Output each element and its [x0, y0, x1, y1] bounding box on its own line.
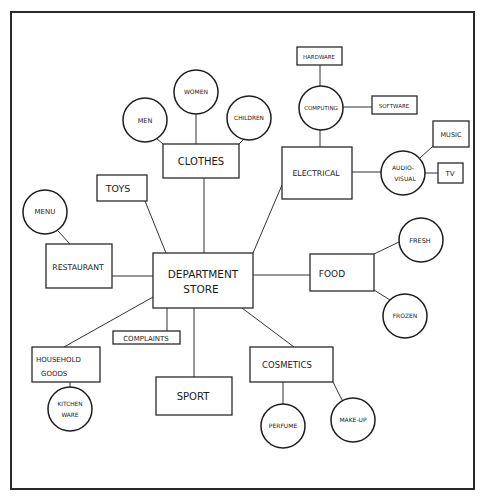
node-electrical[interactable]: ELECTRICAL — [282, 147, 352, 199]
node-music[interactable]: MUSIC — [433, 121, 469, 147]
edge-food-frozen — [374, 290, 390, 300]
node-label: COSMETICS — [262, 360, 312, 370]
node-computing[interactable]: COMPUTING — [299, 86, 343, 130]
node-label: CHILDREN — [234, 115, 264, 121]
edge-store-toys — [145, 201, 166, 253]
node-hardware[interactable]: HARDWARE — [297, 47, 342, 65]
node-fresh[interactable]: FRESH — [399, 218, 443, 262]
node-frozen[interactable]: FROZEN — [383, 294, 427, 338]
node-label: KITCHEN — [57, 401, 82, 407]
node-clothes[interactable]: CLOTHES — [163, 144, 239, 178]
node-label: TV — [444, 170, 454, 178]
edge-store-cosmetics — [242, 308, 294, 347]
node-toys[interactable]: TOYS — [97, 175, 147, 201]
node-department-store[interactable]: DEPARTMENT STORE — [153, 253, 253, 308]
node-make-up[interactable]: MAKE-UP — [331, 398, 375, 442]
node-tv[interactable]: TV — [438, 163, 463, 183]
node-label: MEN — [138, 117, 153, 125]
node-label: MUSIC — [441, 131, 462, 139]
node-menu[interactable]: MENU — [23, 190, 67, 234]
node-audio-visual[interactable]: AUDIO- VISUAL — [381, 151, 425, 195]
edge-restaurant-menu — [58, 231, 70, 244]
node-kitchen-ware[interactable]: KITCHEN WARE — [48, 387, 92, 431]
edge-store-electrical — [253, 185, 282, 253]
node-household-goods[interactable]: HOUSEHOLD GOODS — [32, 347, 100, 382]
node-label: TOYS — [105, 183, 131, 194]
node-label: FRESH — [409, 237, 430, 245]
node-label: AUDIO- — [392, 164, 414, 171]
edge-food-fresh — [374, 242, 399, 254]
node-label: COMPUTING — [304, 105, 338, 111]
node-software[interactable]: SOFTWARE — [372, 96, 417, 114]
node-label: RESTAURANT — [52, 263, 104, 272]
node-men[interactable]: MEN — [123, 98, 167, 142]
node-label: COMPLAINTS — [123, 335, 169, 343]
node-label: FROZEN — [393, 312, 418, 319]
node-label: HOUSEHOLD — [36, 356, 81, 364]
node-label: MAKE-UP — [339, 416, 367, 423]
node-perfume[interactable]: PERFUME — [261, 404, 305, 448]
node-label: WARE — [61, 412, 78, 418]
node-label: MENU — [35, 208, 56, 216]
node-sport[interactable]: SPORT — [156, 377, 232, 415]
node-label: STORE — [183, 283, 218, 295]
node-label: PERFUME — [269, 422, 298, 429]
edge-audiovisual-music — [420, 146, 433, 158]
node-restaurant[interactable]: RESTAURANT — [46, 244, 112, 288]
node-label: SOFTWARE — [379, 103, 410, 109]
node-label: WOMEN — [184, 88, 208, 95]
node-children[interactable]: CHILDREN — [227, 96, 271, 140]
node-label: SPORT — [177, 391, 210, 402]
node-label: CLOTHES — [178, 156, 224, 167]
node-women[interactable]: WOMEN — [174, 70, 218, 114]
node-complaints[interactable]: COMPLAINTS — [113, 331, 180, 344]
node-food[interactable]: FOOD — [310, 254, 374, 291]
node-label: VISUAL — [394, 175, 416, 182]
node-label: GOODS — [41, 370, 68, 378]
node-label: FOOD — [319, 269, 345, 279]
node-label: HARDWARE — [303, 54, 336, 60]
node-label: DEPARTMENT — [168, 268, 239, 280]
node-cosmetics[interactable]: COSMETICS — [250, 347, 333, 382]
mind-map-canvas: DEPARTMENT STORE CLOTHES MEN WOMEN CHILD… — [0, 0, 483, 496]
edge-cosmetics-makeup — [333, 382, 342, 400]
node-label: ELECTRICAL — [292, 169, 340, 178]
